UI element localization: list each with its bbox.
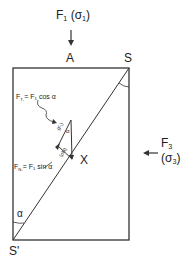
tangential-leader	[38, 100, 55, 122]
f1-label: F1 (σ1)	[56, 9, 90, 22]
point-s-label: S	[124, 52, 132, 64]
f3-arrow-head	[143, 150, 149, 156]
alpha-arc-top	[119, 83, 129, 87]
triangle-alpha-label: α	[66, 128, 69, 134]
f3-label: F3	[161, 137, 172, 150]
f1-arrow-head	[68, 40, 74, 46]
point-s-prime-label: S'	[9, 245, 19, 257]
point-x-label: X	[80, 154, 88, 166]
alpha-label-bottom: α	[17, 209, 23, 219]
tangential-equation: FT₁= F₁ cos α	[16, 93, 56, 102]
alpha-arc-bottom	[13, 222, 24, 223]
point-a-label: A	[66, 52, 74, 64]
sigma3-label: (σ3)	[161, 152, 180, 165]
stress-diagram	[0, 0, 193, 264]
normal-equation: FN₁= F₁ sin α	[14, 163, 52, 172]
